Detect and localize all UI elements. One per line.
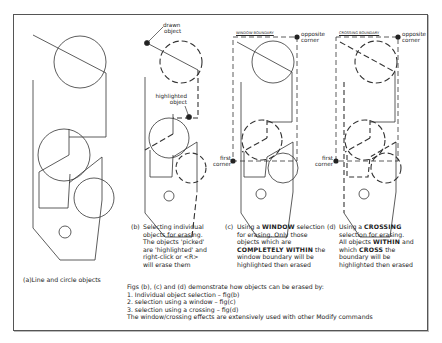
figure-b-caption: (b) Selecting individual objects for era… bbox=[131, 223, 226, 269]
caption-line: for erasing. Only those bbox=[237, 231, 335, 239]
caption-line: highlighted then erased bbox=[339, 261, 427, 269]
caption-text: which bbox=[339, 246, 359, 253]
caption-line: selection for erasing. bbox=[339, 231, 427, 239]
caption-line: The objects 'picked' bbox=[143, 238, 226, 246]
caption-text: selection bbox=[295, 223, 325, 230]
caption-text: the bbox=[383, 246, 395, 253]
caption-text: All objects bbox=[339, 238, 373, 245]
caption-line: objects which are bbox=[237, 238, 335, 246]
caption-text: the bbox=[313, 246, 325, 253]
caption-emphasis: COMPLETELY WITHIN bbox=[237, 246, 313, 253]
caption-prefix: (c) bbox=[225, 223, 233, 231]
caption-text: and bbox=[400, 238, 414, 245]
figure-d-caption: (d) Using a CROSSING selection for erasi… bbox=[327, 223, 427, 269]
caption-emphasis: WITHIN bbox=[373, 238, 400, 245]
first-corner-label: first corner bbox=[212, 155, 231, 167]
figure-b-drawing bbox=[145, 41, 206, 237]
window-boundary-label: WINDOW BOUNDARY bbox=[236, 31, 274, 35]
caption-line: Selecting individual bbox=[143, 223, 226, 231]
caption-prefix: (b) bbox=[131, 223, 140, 231]
caption-prefix: (d) bbox=[327, 223, 336, 231]
caption-emphasis: WINDOW bbox=[262, 223, 295, 230]
notes-intro: Figs (b), (c) and (d) demonstrate how ob… bbox=[127, 283, 373, 291]
opposite-corner-label: opposite corner bbox=[301, 31, 325, 43]
caption-emphasis: CROSS bbox=[359, 246, 383, 253]
label-line: corner bbox=[301, 37, 325, 43]
figure-c-drawing bbox=[237, 41, 298, 237]
notes-footer: The window/crossing effects are extensiv… bbox=[127, 313, 373, 321]
first-corner-label: first corner bbox=[312, 155, 333, 167]
caption-line: are 'highlighted' and bbox=[143, 246, 226, 254]
label-line: object bbox=[152, 99, 187, 105]
figure-a-caption: (a)Line and circle objects bbox=[23, 276, 101, 284]
highlighted-object-label: highlighted object bbox=[152, 93, 187, 105]
figure-a-drawing bbox=[33, 35, 114, 260]
drawn-object-label: drawn object bbox=[163, 22, 181, 34]
caption-line: highlighted then erased bbox=[237, 261, 335, 269]
figure-c-caption: (c) Using a WINDOW selection for erasing… bbox=[225, 223, 335, 269]
notes-item: 2. selection using a window – fig(c) bbox=[127, 298, 373, 306]
caption-emphasis: CROSSING bbox=[364, 223, 401, 230]
label-line: object bbox=[163, 28, 181, 34]
label-line: corner bbox=[212, 161, 231, 167]
caption-text: Using a bbox=[339, 223, 364, 230]
caption-line: will erase them bbox=[143, 261, 226, 269]
notes-block: Figs (b), (c) and (d) demonstrate how ob… bbox=[127, 283, 373, 321]
opposite-corner-label: opposite corner bbox=[402, 31, 426, 43]
caption-line: objects for erasing. bbox=[143, 231, 226, 239]
caption-line: window boundary will be bbox=[237, 253, 335, 261]
caption-line: boundary will be bbox=[339, 253, 427, 261]
caption-line: right-click or <R> bbox=[143, 253, 226, 261]
crossing-boundary-label: CROSSING BOUNDARY bbox=[339, 31, 379, 35]
label-line: corner bbox=[402, 37, 426, 43]
figure-d-drawing bbox=[340, 41, 401, 237]
caption-text: Using a bbox=[237, 223, 262, 230]
notes-item: 3. selection using a crossing – fig(d) bbox=[127, 306, 373, 314]
notes-item: 1. Individual object selection – fig(b) bbox=[127, 291, 373, 299]
label-line: corner bbox=[312, 161, 333, 167]
